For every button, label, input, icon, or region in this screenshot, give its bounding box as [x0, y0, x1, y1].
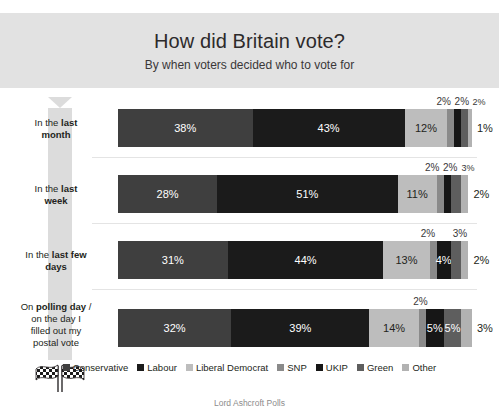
- chart-row: In the last month 38% 43% 12% 2% 2% 2%: [0, 95, 499, 161]
- bar-segment-value: 11%: [407, 189, 428, 200]
- legend-swatch-icon: [63, 364, 70, 371]
- bar-segment-green[interactable]: 3%: [451, 241, 462, 279]
- stacked-bar[interactable]: 28% 51% 11% 2% 2% 3% 2%: [118, 175, 472, 213]
- category-label: On polling day / on the day I filled out…: [0, 301, 112, 349]
- category-label: In the last month: [0, 117, 112, 141]
- bar-segment-other[interactable]: 2%: [461, 241, 468, 279]
- legend-swatch-icon: [277, 364, 284, 371]
- bar-segment-value: 3%: [453, 228, 467, 239]
- bar-segment-labour[interactable]: 51%: [217, 175, 398, 213]
- bar-segment-other[interactable]: 1%: [468, 109, 472, 147]
- category-label: In the last week: [0, 183, 112, 207]
- source-credit: Lord Ashcroft Polls: [0, 398, 499, 408]
- category-label-suffix: /: [86, 301, 91, 312]
- category-label-emphasis: last: [61, 117, 77, 128]
- bar-segment-value: 2%: [455, 96, 469, 107]
- bar-segment-conservative[interactable]: 38%: [118, 109, 253, 147]
- page-title: How did Britain vote?: [154, 29, 345, 53]
- category-label-line2: days: [45, 261, 67, 272]
- bar-segment-liberal-democrat[interactable]: 11%: [398, 175, 437, 213]
- bar-segment-value: 5%: [427, 323, 443, 334]
- bar-segment-conservative[interactable]: 31%: [118, 241, 228, 279]
- legend-swatch-icon: [137, 364, 144, 371]
- legend-item-green[interactable]: Green: [357, 362, 393, 373]
- bar-segment-value: 14%: [383, 323, 405, 334]
- category-label-emphasis: last few: [52, 249, 87, 260]
- row-divider: [92, 223, 477, 224]
- bar-segment-value: 39%: [289, 323, 311, 334]
- bar-segment-value: 2%: [425, 162, 439, 173]
- bar-segment-conservative[interactable]: 28%: [118, 175, 217, 213]
- bar-segment-value: 1%: [477, 122, 493, 134]
- bar-segment-value: 51%: [296, 189, 318, 200]
- stacked-bar[interactable]: 31% 44% 13% 2% 4% 3% 2%: [118, 241, 472, 279]
- category-label-line4: postal vote: [33, 337, 79, 348]
- chart-plot-area: In the last month 38% 43% 12% 2% 2% 2%: [0, 95, 499, 360]
- bar-segment-value: 2%: [437, 96, 451, 107]
- category-label: In the last few days: [0, 249, 112, 273]
- bar-segment-value: 2%: [473, 254, 489, 266]
- category-label-line2: month: [41, 129, 70, 140]
- bar-segment-value: 12%: [415, 123, 437, 134]
- bar-segment-ukip[interactable]: 2%: [454, 109, 461, 147]
- bar-segment-green[interactable]: 3%: [451, 175, 462, 213]
- category-label-part: In the: [35, 117, 61, 128]
- bar-segment-value: 43%: [318, 123, 340, 134]
- bar-segment-value: 5%: [445, 323, 461, 334]
- legend-swatch-icon: [357, 364, 364, 371]
- stacked-bar[interactable]: 38% 43% 12% 2% 2% 2% 1%: [118, 109, 472, 147]
- chart-row: In the last week 28% 51% 11% 2% 2% 3%: [0, 161, 499, 227]
- bar-segment-snp[interactable]: 2%: [437, 175, 444, 213]
- bar-segment-ukip[interactable]: 2%: [444, 175, 451, 213]
- bar-segment-labour[interactable]: 43%: [253, 109, 405, 147]
- bar-segment-green[interactable]: 5%: [444, 309, 462, 347]
- bar-segment-value: 28%: [157, 189, 179, 200]
- legend-item-labour[interactable]: Labour: [137, 362, 177, 373]
- bar-segment-value: 2%: [421, 228, 435, 239]
- legend-swatch-icon: [316, 364, 323, 371]
- bar-segment-value: 4%: [436, 255, 452, 266]
- category-label-line3: filled out my: [31, 325, 82, 336]
- bar-segment-ukip[interactable]: 4%: [437, 241, 451, 279]
- category-label-part: In the: [25, 249, 51, 260]
- legend-swatch-icon: [402, 364, 409, 371]
- chart-row: In the last few days 31% 44% 13% 2% 4% 3…: [0, 227, 499, 293]
- bar-segment-snp[interactable]: 2%: [447, 109, 454, 147]
- bar-segment-value: 31%: [162, 255, 184, 266]
- legend-label: Other: [412, 362, 436, 373]
- header: How did Britain vote? By when voters dec…: [0, 13, 499, 88]
- bar-segment-value: 2%: [473, 188, 489, 200]
- bar-segment-value: 3%: [462, 163, 475, 173]
- row-divider: [92, 289, 477, 290]
- bar-segment-value: 2%: [413, 296, 427, 307]
- legend-item-other[interactable]: Other: [402, 362, 436, 373]
- category-label-emphasis: last: [61, 183, 77, 194]
- bar-segment-value: 2%: [472, 97, 485, 107]
- category-label-line2: on the day I: [31, 313, 81, 324]
- legend-label: Conservative: [73, 362, 128, 373]
- legend-item-ukip[interactable]: UKIP: [316, 362, 348, 373]
- bar-segment-labour[interactable]: 44%: [228, 241, 384, 279]
- bar-segment-snp[interactable]: 2%: [419, 309, 426, 347]
- legend-label: Liberal Democrat: [196, 362, 268, 373]
- bar-segment-value: 13%: [395, 255, 417, 266]
- legend-swatch-icon: [186, 364, 193, 371]
- bar-segment-liberal-democrat[interactable]: 13%: [383, 241, 429, 279]
- stacked-bar[interactable]: 32% 39% 14% 2% 5% 5% 3%: [118, 309, 472, 347]
- bar-segment-other[interactable]: 3%: [461, 309, 472, 347]
- bar-segment-value: 44%: [295, 255, 317, 266]
- legend-item-snp[interactable]: SNP: [277, 362, 307, 373]
- chart-row: On polling day / on the day I filled out…: [0, 293, 499, 359]
- bar-segment-value: 2%: [443, 162, 457, 173]
- page-subtitle: By when voters decided who to vote for: [145, 58, 354, 72]
- bar-segment-labour[interactable]: 39%: [231, 309, 369, 347]
- legend-item-conservative[interactable]: Conservative: [63, 362, 128, 373]
- bar-segment-conservative[interactable]: 32%: [118, 309, 231, 347]
- bar-segment-ukip[interactable]: 5%: [426, 309, 444, 347]
- bar-segment-liberal-democrat[interactable]: 12%: [405, 109, 447, 147]
- row-divider: [92, 157, 477, 158]
- bar-segment-liberal-democrat[interactable]: 14%: [369, 309, 419, 347]
- bar-segment-green[interactable]: 2%: [461, 109, 468, 147]
- legend-item-liberal-democrat[interactable]: Liberal Democrat: [186, 362, 268, 373]
- bar-segment-other[interactable]: 2%: [461, 175, 468, 213]
